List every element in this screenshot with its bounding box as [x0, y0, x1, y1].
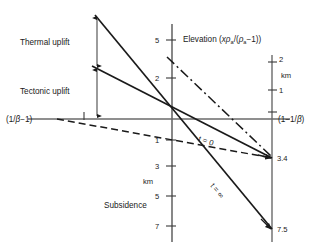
curve-label-t-infinity: t = ∞ — [208, 182, 226, 201]
tick-label-lower-1: 1 — [155, 136, 159, 145]
label-km-vertical: km — [143, 177, 153, 186]
tick-label-right-2: 2 — [279, 55, 283, 64]
figure-title: Elevation (xρa/(ρa−1)) — [183, 35, 262, 45]
endpoint-arrows-group — [258, 155, 271, 229]
tick-label-upper-2: 2 — [155, 74, 159, 83]
label-right-baseline: (1−1/β) — [278, 115, 305, 124]
right-num: 1−1/ — [281, 115, 298, 124]
left-tail: −1) — [20, 115, 32, 124]
data-lines-group — [57, 15, 272, 229]
title-minus-1: −1 — [246, 35, 256, 44]
endpoint-label-deep: 7.5 — [277, 225, 288, 234]
label-km-right: km — [281, 71, 291, 80]
axes-group — [28, 24, 290, 242]
tick-label-lower-3: 3 — [155, 162, 159, 171]
line-t-infinity — [95, 15, 272, 229]
tick-label-right-1: 1 — [279, 86, 283, 95]
label-tectonic-uplift: Tectonic uplift — [20, 87, 70, 96]
tick-label-lower-5: 5 — [155, 192, 159, 201]
tick-label-upper-5: 5 — [155, 36, 159, 45]
label-subsidence: Subsidence — [104, 201, 147, 210]
endpoint-label-shallow: 3.4 — [277, 154, 288, 163]
diagram-canvas: Elevation (xρa/(ρa−1)) Thermal uplift Te… — [0, 0, 318, 248]
label-thermal-uplift: Thermal uplift — [20, 38, 70, 47]
line-dashed-subsidence — [57, 119, 272, 158]
curve-label-t-zero: t = 0 — [197, 134, 215, 148]
title-word: Elevation — [183, 35, 217, 44]
right-tail: ) — [302, 115, 305, 124]
figure-container: Elevation (xρa/(ρa−1)) Thermal uplift Te… — [0, 0, 318, 248]
tick-group — [84, 40, 277, 226]
label-left-baseline: (1/β−1) — [6, 115, 33, 124]
title-close: ) — [259, 35, 262, 44]
line-t-zero — [92, 66, 272, 158]
tick-label-lower-7: 7 — [155, 222, 159, 231]
